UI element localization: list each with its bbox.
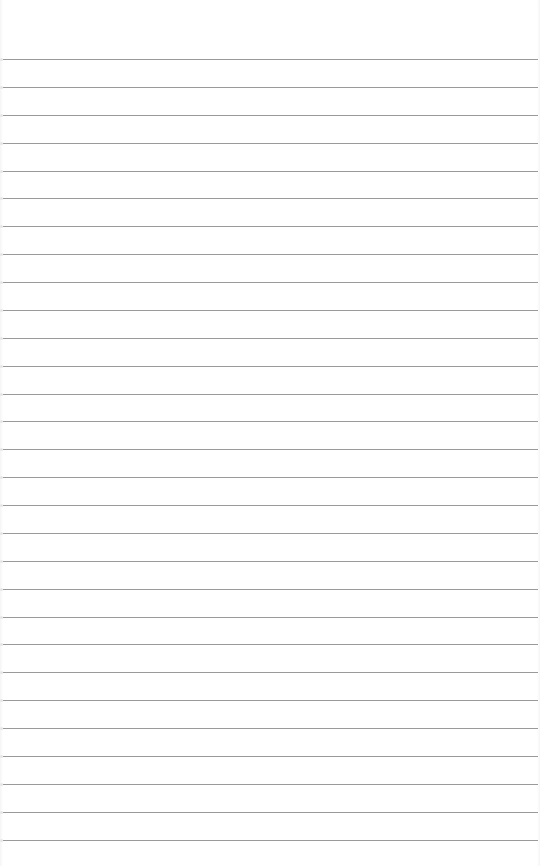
- ruled-line: [3, 338, 538, 339]
- ruled-line: [3, 226, 538, 227]
- ruled-line: [3, 59, 538, 60]
- ruled-line: [3, 533, 538, 534]
- ruled-line: [3, 561, 538, 562]
- ruled-line: [3, 310, 538, 311]
- ruled-line: [3, 840, 538, 841]
- ruled-line: [3, 700, 538, 701]
- ruled-line: [3, 728, 538, 729]
- ruled-line: [3, 198, 538, 199]
- ruled-line: [3, 756, 538, 757]
- ruled-line: [3, 87, 538, 88]
- ruled-line: [3, 366, 538, 367]
- ruled-line: [3, 394, 538, 395]
- ruled-line: [3, 421, 538, 422]
- ruled-line: [3, 784, 538, 785]
- ruled-line: [3, 644, 538, 645]
- ruled-line: [3, 672, 538, 673]
- ruled-line: [3, 505, 538, 506]
- ruled-line: [3, 477, 538, 478]
- ruled-paper-sheet: [0, 0, 540, 866]
- ruled-line: [3, 115, 538, 116]
- ruled-line: [3, 143, 538, 144]
- ruled-line: [3, 449, 538, 450]
- ruled-line: [3, 254, 538, 255]
- ruled-line: [3, 589, 538, 590]
- ruled-line: [3, 171, 538, 172]
- ruled-line: [3, 812, 538, 813]
- ruled-line: [3, 617, 538, 618]
- ruled-line: [3, 282, 538, 283]
